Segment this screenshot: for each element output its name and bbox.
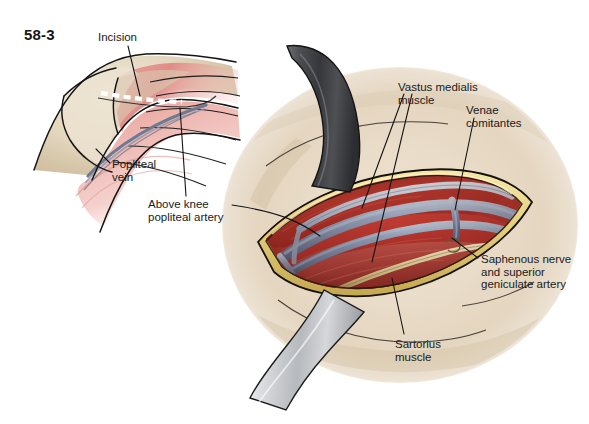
medical-figure: 58-3 Incision Popliteal vein Above knee … (0, 0, 589, 424)
label-incision: Incision (98, 31, 137, 44)
illustration-canvas (0, 0, 589, 424)
label-popliteal-vein: Popliteal vein (112, 158, 156, 183)
label-saphenous-nerve: Saphenous nerve and superior geniculate … (481, 253, 571, 291)
figure-number: 58-3 (24, 26, 55, 43)
label-sartorius-muscle: Sartorius muscle (395, 338, 441, 363)
label-above-knee-popliteal-artery: Above knee popliteal artery (148, 198, 223, 223)
label-vastus-medialis-muscle: Vastus medialis muscle (398, 81, 478, 106)
label-venae-comitantes: Venae comitantes (466, 104, 522, 129)
